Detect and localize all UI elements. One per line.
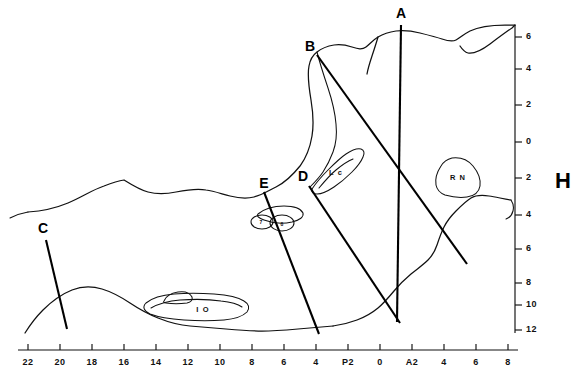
panel-label: H — [555, 168, 571, 193]
y-tick-label: 6 — [526, 243, 532, 253]
y-axis: 6 4 2 0 2 4 6 8 10 12 — [515, 25, 537, 334]
plane-label-a: A — [396, 5, 406, 21]
section-line-c[interactable] — [46, 240, 67, 329]
y-tick-label: 10 — [526, 299, 537, 309]
x-axis-labels: 22 20 18 16 14 12 10 8 6 4 P2 0 A2 4 6 8 — [22, 357, 510, 367]
y-tick-label: 8 — [526, 277, 532, 287]
x-tick-label: 14 — [150, 357, 161, 367]
structure-label-7: 7 — [260, 219, 263, 225]
x-tick-label: A2 — [406, 357, 419, 367]
y-tick-label: 2 — [526, 172, 532, 182]
structure-label-io: I O — [196, 305, 209, 314]
plane-label-b: B — [305, 38, 315, 54]
x-tick-label: 10 — [214, 357, 225, 367]
x-tick-label: 6 — [281, 357, 287, 367]
plane-label-d: D — [298, 168, 308, 184]
right-upper-notch — [367, 37, 378, 74]
structure-labels: L c R N I O 7 8 — [196, 168, 466, 314]
medial-inner-contour — [310, 52, 336, 187]
right-lateral-contour — [460, 25, 515, 53]
x-axis: 22 20 18 16 14 12 10 8 6 4 P2 0 A2 4 6 8 — [18, 344, 518, 367]
structure-label-8: 8 — [281, 221, 284, 227]
section-plane-lines — [46, 25, 467, 334]
structure-label-rn: R N — [450, 173, 466, 182]
y-tick-label: 6 — [526, 31, 532, 41]
right-edge-hook — [506, 200, 513, 219]
plane-label-e: E — [259, 175, 268, 191]
section-line-d[interactable] — [309, 186, 400, 323]
y-tick-label: 0 — [526, 136, 532, 146]
structure-label-lc: L c — [329, 168, 343, 177]
x-tick-label: 4 — [441, 357, 447, 367]
y-tick-label: 12 — [526, 324, 537, 334]
x-tick-label: 22 — [22, 357, 33, 367]
left-tail-contour — [10, 212, 28, 218]
x-tick-label: 8 — [505, 357, 511, 367]
x-tick-label: 4 — [313, 357, 319, 367]
figure-root: A B C D E L c R N I O 7 8 — [0, 0, 579, 377]
x-tick-label: 6 — [473, 357, 479, 367]
plane-label-c: C — [38, 220, 48, 236]
x-tick-label: 8 — [249, 357, 255, 367]
y-tick-label: 2 — [526, 99, 532, 109]
x-tick-label: 16 — [118, 357, 129, 367]
y-tick-label: 4 — [526, 63, 532, 73]
y-axis-labels: 6 4 2 0 2 4 6 8 10 12 — [526, 31, 537, 334]
x-tick-label: 18 — [86, 357, 97, 367]
section-plane-labels: A B C D E — [38, 5, 406, 236]
x-tick-label: 12 — [182, 357, 193, 367]
y-tick-label: 4 — [526, 209, 532, 219]
section-line-a[interactable] — [397, 25, 401, 322]
x-tick-label: P2 — [342, 357, 354, 367]
x-tick-label: 0 — [377, 357, 383, 367]
atlas-diagram: A B C D E L c R N I O 7 8 — [0, 0, 579, 377]
dorsal-contour — [28, 25, 515, 212]
x-tick-label: 20 — [54, 357, 65, 367]
y-axis-ticks — [515, 37, 522, 330]
section-line-e[interactable] — [264, 192, 319, 334]
x-axis-ticks — [28, 344, 508, 350]
